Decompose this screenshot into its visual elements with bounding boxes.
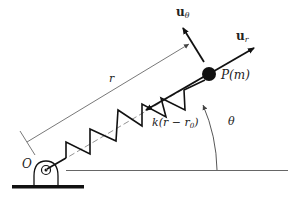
spring-force-text: k(r − r: [152, 116, 190, 129]
diagram-canvas: O r θ P(m) k(r − r0) ur uθ: [0, 0, 301, 199]
angle-label: θ: [228, 116, 235, 127]
unit-theta-subscript: θ: [185, 11, 190, 20]
unit-vector-r-label: ur: [236, 30, 248, 44]
mass-label: P(m): [221, 69, 250, 81]
spring-force-close: ): [194, 116, 198, 129]
unit-r-subscript: r: [245, 35, 249, 44]
unit-theta-base: u: [176, 5, 185, 19]
spring-force-label: k(r − r0): [152, 117, 199, 129]
ground-base: [12, 185, 84, 189]
origin-label: O: [22, 158, 32, 170]
angle-arc: [203, 105, 217, 170]
unit-vector-theta-arrow: [183, 28, 204, 62]
radius-label: r: [109, 73, 114, 84]
mass-point: [202, 67, 216, 81]
diagram-svg: [0, 0, 301, 199]
unit-r-base: u: [236, 29, 245, 43]
unit-vector-theta-label: uθ: [176, 6, 189, 20]
